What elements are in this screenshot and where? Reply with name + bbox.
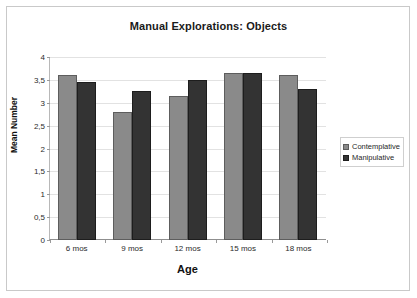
y-axis-tick-label: 3 — [15, 98, 45, 107]
legend-item: Manipulative — [343, 152, 400, 163]
bar — [279, 75, 298, 240]
bar — [58, 75, 77, 240]
bar-group — [215, 57, 270, 240]
x-axis-tick-mark — [272, 240, 273, 243]
legend-label: Contemplative — [352, 141, 400, 152]
y-axis-tick-label: 1,5 — [15, 167, 45, 176]
x-axis-tick-mark — [327, 240, 328, 243]
bar — [169, 96, 188, 240]
bar-group — [271, 57, 326, 240]
x-axis-tick-label: 12 mos — [160, 244, 215, 253]
legend-label: Manipulative — [352, 152, 394, 163]
y-axis-tick-label: 0,5 — [15, 213, 45, 222]
y-axis-tick-label: 0 — [15, 236, 45, 245]
bar — [188, 80, 207, 240]
bar — [113, 112, 132, 240]
y-axis-tick-label: 2 — [15, 144, 45, 153]
y-axis-tick-label: 3,5 — [15, 75, 45, 84]
chart-screenshot: Manual Explorations: Objects Mean Number… — [0, 0, 417, 298]
bar — [77, 82, 96, 240]
x-axis-tick-mark — [161, 240, 162, 243]
x-axis-tick-labels: 6 mos9 mos12 mos15 mos18 mos — [49, 244, 326, 253]
bar-group — [160, 57, 215, 240]
legend-swatch-icon — [343, 155, 349, 161]
y-axis-tick-label: 4 — [15, 53, 45, 62]
x-axis-tick-label: 6 mos — [49, 244, 104, 253]
y-axis-tick-label: 1 — [15, 190, 45, 199]
x-axis-tick-mark — [50, 240, 51, 243]
chart-legend: ContemplativeManipulative — [340, 137, 404, 167]
bar-group — [104, 57, 159, 240]
x-axis-title: Age — [49, 263, 326, 275]
y-axis-tick-label: 2,5 — [15, 121, 45, 130]
chart-title: Manual Explorations: Objects — [0, 20, 417, 32]
x-axis-tick-label: 18 mos — [271, 244, 326, 253]
bar-groups — [49, 57, 326, 240]
x-axis-tick-mark — [216, 240, 217, 243]
bar — [224, 73, 243, 240]
legend-swatch-icon — [343, 144, 349, 150]
x-axis-tick-mark — [105, 240, 106, 243]
bar-group — [49, 57, 104, 240]
legend-item: Contemplative — [343, 141, 400, 152]
x-axis-tick-label: 9 mos — [104, 244, 159, 253]
y-axis-tick-labels: 43,532,521,510,50 — [12, 57, 45, 240]
bar — [132, 91, 151, 240]
bar — [243, 73, 262, 240]
x-axis-tick-label: 15 mos — [215, 244, 270, 253]
bar — [298, 89, 317, 240]
